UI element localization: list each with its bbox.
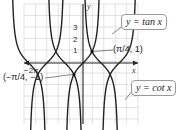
point-label-neg: (−π/4, −1) (3, 72, 43, 82)
tan-callout: y = tan x (121, 14, 167, 30)
point-label-pos: (π/4, 1) (113, 44, 143, 54)
cot-callout: y = cot x (131, 80, 176, 96)
y-tick-2: 2 (73, 35, 77, 44)
x-axis-label: x (132, 66, 136, 75)
y-tick-1: 1 (73, 46, 77, 55)
curves (12, 0, 136, 130)
y-axis-label: y (87, 2, 91, 11)
y-tick-3: 3 (73, 23, 77, 32)
